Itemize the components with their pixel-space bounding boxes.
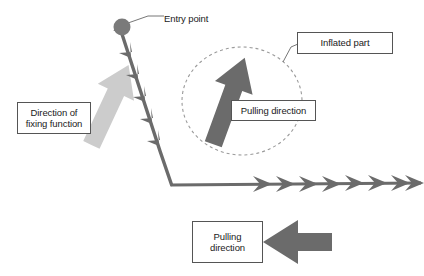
label-inflated-part: Inflated part xyxy=(297,32,393,54)
label-pulling-direction-bottom: Pulling direction xyxy=(192,221,263,263)
entry-point-leader-line xyxy=(128,16,164,23)
inflated-part-leader-line xyxy=(283,44,298,62)
label-entry-point: Entry point xyxy=(164,12,240,26)
label-pulling-direction-ellipse: Pulling direction xyxy=(231,100,316,121)
label-direction-of-fixing-function: Direction of fixing function xyxy=(17,102,91,134)
pulling-direction-arrow-left xyxy=(263,220,332,264)
horizontal-chevron-line xyxy=(171,175,424,192)
diagram-canvas: Entry point Direction of fixing function… xyxy=(0,0,424,276)
entry-point-dot xyxy=(114,19,131,36)
barbed-suture-line xyxy=(113,20,172,186)
